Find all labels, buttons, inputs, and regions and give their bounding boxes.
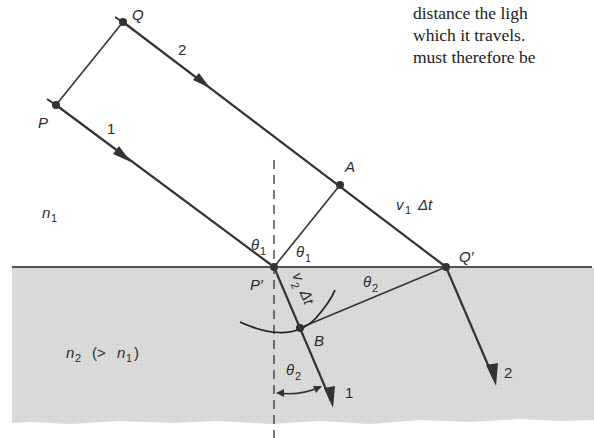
label-ray-2: 2 xyxy=(178,41,186,58)
refraction-diagram: Q P A P′ Q′ B 2 1 1 2 θ 1 θ 1 θ 2 θ 2 v … xyxy=(0,0,594,438)
label-Q: Q xyxy=(132,6,144,23)
svg-text:θ: θ xyxy=(363,273,371,290)
svg-text:n: n xyxy=(42,204,50,221)
wavefront-PQ xyxy=(56,22,123,105)
svg-text:1: 1 xyxy=(51,212,57,224)
ray-2-arrow-icon xyxy=(193,73,210,88)
svg-text:2: 2 xyxy=(372,282,378,294)
label-ray-1-refracted: 1 xyxy=(345,384,353,401)
svg-text:1: 1 xyxy=(260,245,266,257)
svg-text:n: n xyxy=(117,344,125,361)
svg-text:1: 1 xyxy=(126,352,132,364)
label-Pprime: P′ xyxy=(250,276,264,293)
svg-text:Δt: Δt xyxy=(417,196,433,213)
label-P: P xyxy=(38,114,48,131)
svg-text:1: 1 xyxy=(405,204,411,216)
label-B: B xyxy=(314,332,324,349)
svg-text:θ: θ xyxy=(251,236,259,253)
point-Q-marker xyxy=(119,18,127,26)
svg-text:v: v xyxy=(396,196,405,213)
svg-text:1: 1 xyxy=(305,252,311,264)
label-A: A xyxy=(344,158,355,175)
label-theta1-incident: θ 1 xyxy=(251,236,266,257)
svg-text:2: 2 xyxy=(75,352,81,364)
ray-1-incident xyxy=(56,105,274,267)
label-theta1-wavefront: θ 1 xyxy=(296,243,311,264)
point-P-marker xyxy=(52,101,60,109)
svg-text:θ: θ xyxy=(296,243,304,260)
svg-text:): ) xyxy=(134,344,139,361)
svg-text:θ: θ xyxy=(286,361,294,378)
label-ray-1: 1 xyxy=(107,120,115,137)
point-Qprime-marker xyxy=(442,263,450,271)
point-A-marker xyxy=(336,181,344,189)
label-v1-dt: v 1 Δt xyxy=(396,196,433,216)
point-B-marker xyxy=(296,324,304,332)
label-n1: n 1 xyxy=(42,204,57,224)
point-Pprime-marker xyxy=(270,263,278,271)
svg-text:2: 2 xyxy=(295,370,301,382)
label-Qprime: Q′ xyxy=(459,248,475,265)
label-ray-2-refracted: 2 xyxy=(504,364,512,381)
svg-text:(>: (> xyxy=(92,344,106,361)
svg-text:n: n xyxy=(66,344,74,361)
ray-2-incident xyxy=(123,22,446,267)
